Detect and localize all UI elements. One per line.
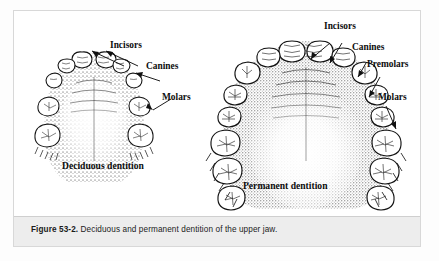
label-deciduous-incisors: Incisors [110, 41, 142, 50]
label-permanent-canines: Canines [352, 43, 384, 52]
figure-caption: Figure 53-2. Deciduous and permanent den… [31, 225, 277, 234]
deciduous-tooth-detail [41, 57, 148, 141]
label-deciduous-dentition-title: Deciduous dentition [62, 161, 144, 171]
figure-page: Incisors Canines Molars Deciduous dentit… [0, 0, 439, 261]
label-permanent-incisors: Incisors [324, 22, 356, 31]
deciduous-gingival-hatching [35, 147, 153, 160]
label-permanent-molars: Molars [378, 93, 407, 102]
artwork-area: Incisors Canines Molars Deciduous dentit… [14, 11, 420, 216]
figure-number: Figure 53-2. [31, 225, 78, 234]
figure-panel: Incisors Canines Molars Deciduous dentit… [13, 10, 421, 247]
label-deciduous-canines: Canines [146, 62, 178, 71]
label-permanent-dentition-title: Permanent dentition [243, 181, 327, 191]
figure-caption-band: Figure 53-2. Deciduous and permanent den… [14, 216, 420, 246]
permanent-leader-lines [311, 43, 396, 129]
label-deciduous-molars: Molars [162, 93, 191, 102]
deciduous-leader-arrowheads [92, 51, 153, 110]
label-permanent-premolars: Premolars [367, 60, 408, 69]
deciduous-leader-lines [92, 51, 171, 110]
figure-caption-text: Deciduous and permanent dentition of the… [81, 225, 278, 234]
deciduous-teeth [35, 52, 153, 147]
